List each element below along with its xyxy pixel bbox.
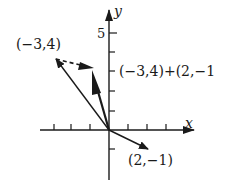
vector-u-arrow [56, 59, 109, 130]
vector-v-label: (2,−1) [128, 153, 173, 167]
vector-v-arrow [109, 130, 148, 149]
x-axis-ticks [54, 124, 166, 130]
vector-sum-label: (−3,4)+(2,−1 [119, 64, 215, 78]
x-axis-label: x [185, 116, 193, 130]
vector-sum-arrow [92, 70, 109, 130]
y-tick-label-5: 5 [97, 27, 105, 40]
x-axis [40, 124, 194, 130]
vector-addition-diagram [0, 0, 244, 185]
y-axis [109, 10, 117, 180]
y-axis-label: y [114, 4, 122, 18]
translated-vector-v-arrow [56, 59, 94, 70]
vector-u-label: (−3,4) [16, 37, 61, 51]
